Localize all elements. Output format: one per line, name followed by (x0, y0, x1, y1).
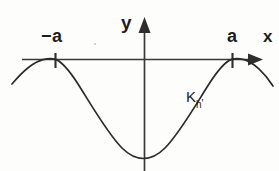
math-figure: y x −a a Kh' (0, 0, 279, 171)
x-tick-label-negative-a: −a (41, 27, 63, 45)
curve-label-prime: ' (202, 97, 204, 109)
curve-k-h-prime (12, 59, 273, 159)
curve-label-base: K (186, 88, 196, 105)
y-axis-arrow-icon (139, 17, 151, 33)
curve-label-subscript: h (196, 99, 202, 110)
curve-label-k-h-prime: Kh' (186, 89, 204, 108)
scan-speck (94, 43, 96, 45)
y-axis-label: y (121, 13, 132, 32)
x-axis-label: x (263, 28, 272, 45)
x-axis-arrow-icon (248, 54, 263, 66)
x-tick-label-positive-a: a (227, 27, 237, 45)
